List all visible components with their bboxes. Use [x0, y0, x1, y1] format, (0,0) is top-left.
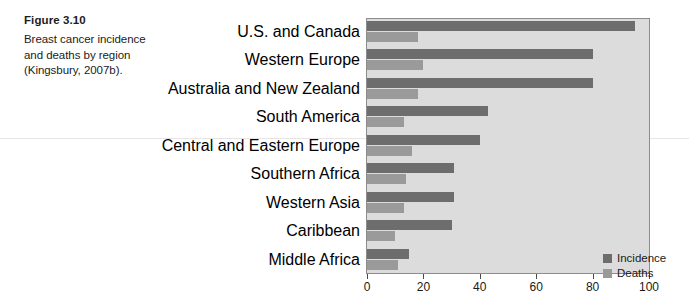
bar-deaths	[367, 32, 418, 42]
x-tick-mark	[536, 274, 537, 279]
category-axis-labels: U.S. and CanadaWestern EuropeAustralia a…	[60, 18, 360, 274]
bar-incidence	[367, 21, 635, 31]
category-label: South America	[60, 103, 360, 131]
x-tick-mark	[367, 274, 368, 279]
chart-legend: Incidence Deaths	[603, 251, 681, 281]
bar-incidence	[367, 78, 593, 88]
plot-area	[366, 18, 650, 274]
bar-group	[367, 104, 649, 132]
bar-group	[367, 218, 649, 246]
category-label: Australia and New Zealand	[60, 75, 360, 103]
bar-deaths	[367, 117, 404, 127]
category-label: Caribbean	[60, 217, 360, 245]
category-label: U.S. and Canada	[60, 18, 360, 46]
bar-incidence	[367, 249, 409, 259]
bar-deaths	[367, 260, 398, 270]
x-tick-mark	[423, 274, 424, 279]
x-tick-label: 60	[530, 280, 543, 294]
category-label: Central and Eastern Europe	[60, 132, 360, 160]
legend-item-incidence: Incidence	[603, 251, 681, 265]
x-tick-mark	[593, 274, 594, 279]
bar-deaths	[367, 174, 406, 184]
bar-deaths	[367, 203, 404, 213]
legend-swatch-incidence-icon	[603, 254, 612, 263]
bar-incidence	[367, 192, 454, 202]
bar-incidence	[367, 106, 488, 116]
bar-incidence	[367, 135, 480, 145]
bar-group	[367, 76, 649, 104]
bar-group	[367, 190, 649, 218]
category-label: Western Asia	[60, 189, 360, 217]
category-label: Western Europe	[60, 46, 360, 74]
bar-deaths	[367, 146, 412, 156]
bar-group	[367, 161, 649, 189]
x-tick-mark	[480, 274, 481, 279]
legend-swatch-deaths-icon	[603, 269, 612, 278]
bar-deaths	[367, 60, 423, 70]
x-tick-label: 20	[417, 280, 430, 294]
bar-incidence	[367, 220, 452, 230]
bar-incidence	[367, 49, 593, 59]
bar-deaths	[367, 89, 418, 99]
legend-label-deaths: Deaths	[617, 267, 653, 279]
x-tick-label: 0	[364, 280, 371, 294]
bar-group	[367, 133, 649, 161]
legend-label-incidence: Incidence	[617, 252, 666, 264]
bar-deaths	[367, 231, 395, 241]
x-tick-label: 100	[639, 280, 659, 294]
bar-chart: U.S. and CanadaWestern EuropeAustralia a…	[0, 0, 689, 305]
bar-group	[367, 19, 649, 47]
x-tick-label: 40	[473, 280, 486, 294]
category-label: Middle Africa	[60, 246, 360, 274]
bar-incidence	[367, 163, 454, 173]
x-tick-label: 80	[586, 280, 599, 294]
legend-item-deaths: Deaths	[603, 266, 681, 280]
bar-group	[367, 47, 649, 75]
category-label: Southern Africa	[60, 160, 360, 188]
